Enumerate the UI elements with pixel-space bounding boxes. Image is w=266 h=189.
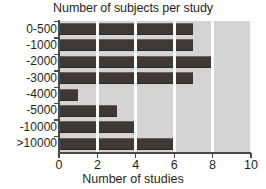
bar--4000 <box>59 89 78 101</box>
x-tick-10 <box>250 153 251 158</box>
y-tick--4000 <box>54 87 59 88</box>
x-tick-label-2: 2 <box>94 158 101 172</box>
bar-row <box>59 119 251 135</box>
bar--5000 <box>59 105 117 117</box>
x-tick-label-6: 6 <box>171 158 178 172</box>
y-tick-label--2000: -2000 <box>26 55 57 68</box>
x-tick-0 <box>58 153 59 158</box>
y-tick--2000 <box>54 54 59 55</box>
x-axis-line <box>58 152 251 154</box>
y-tick-label->10000: >10000 <box>17 137 57 150</box>
y-tick--10000 <box>54 119 59 120</box>
plot-area <box>59 21 251 152</box>
bar-row <box>59 37 251 53</box>
y-tick-label--1000: -1000 <box>26 39 57 52</box>
bar-row <box>59 54 251 70</box>
x-tick-2 <box>97 153 98 158</box>
gridline-2 <box>96 21 99 152</box>
bar-chart-figure: Number of subjects per study 0-500-1000-… <box>0 0 266 189</box>
bar-row <box>59 103 251 119</box>
gridline-10 <box>250 21 253 152</box>
y-tick-0-500 <box>54 21 59 22</box>
gridline-6 <box>173 21 176 152</box>
bar->10000 <box>59 138 174 150</box>
y-tick-label-0-500: 0-500 <box>26 23 57 36</box>
y-tick-label--3000: -3000 <box>26 72 57 85</box>
y-tick--3000 <box>54 70 59 71</box>
bar-row <box>59 70 251 86</box>
bar-series <box>59 21 251 152</box>
x-tick-8 <box>212 153 213 158</box>
gridline-8 <box>211 21 214 152</box>
x-tick-label-8: 8 <box>209 158 216 172</box>
x-tick-6 <box>174 153 175 158</box>
x-tick-label-4: 4 <box>132 158 139 172</box>
bar-row <box>59 87 251 103</box>
x-axis-title: Number of studies <box>0 172 266 187</box>
chart-title: Number of subjects per study <box>0 1 266 16</box>
bar-row <box>59 136 251 152</box>
x-tick-4 <box>135 153 136 158</box>
y-tick-label--4000: -4000 <box>26 88 57 101</box>
y-tick-label--10000: -10000 <box>20 121 57 134</box>
y-tick--5000 <box>54 103 59 104</box>
x-tick-label-10: 10 <box>244 158 258 172</box>
y-tick-label--5000: -5000 <box>26 104 57 117</box>
gridline-4 <box>134 21 137 152</box>
x-tick-label-0: 0 <box>56 158 63 172</box>
y-tick--1000 <box>54 37 59 38</box>
y-tick->10000 <box>54 136 59 137</box>
bar-row <box>59 21 251 37</box>
